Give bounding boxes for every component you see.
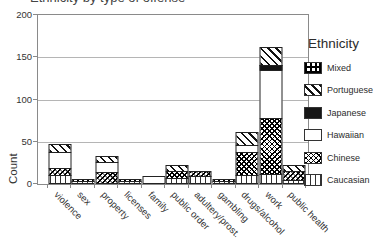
chart-title: Ethnicity by type of offense	[30, 0, 185, 5]
vlines-pattern-swatch-icon	[304, 174, 322, 186]
plain-pattern-swatch-icon	[304, 129, 322, 141]
legend-item-japanese: Japanese	[304, 107, 372, 118]
stacked-bar-licenses	[119, 179, 142, 184]
solid-pattern-swatch-icon	[304, 107, 322, 119]
bar-segment-hawaiian	[48, 152, 71, 168]
stacked-bar-gambling	[212, 179, 235, 184]
bar-segment-caucasian	[212, 181, 235, 184]
bar-slot-1	[48, 15, 71, 184]
legend-item-mixed: Mixed	[304, 62, 372, 73]
bar-slot-9	[236, 15, 259, 184]
x-tick-mark	[188, 184, 189, 188]
y-tick-label-0: 0	[27, 178, 32, 189]
y-tick-mark	[33, 183, 37, 184]
bar-slot-10	[259, 15, 282, 184]
legend: Ethnicity MixedPortugueseJapaneseHawaiia…	[304, 36, 372, 197]
grid-pattern-swatch-icon	[304, 62, 322, 74]
stacked-bar-work	[259, 47, 282, 184]
bar-segment-caucasian	[283, 180, 306, 184]
legend-item-label: Mixed	[327, 63, 351, 73]
legend-item-portuguese: Portuguese	[304, 85, 372, 96]
x-tick-mark	[258, 184, 259, 188]
bar-segment-caucasian	[165, 178, 188, 184]
bar-slot-11	[283, 15, 306, 184]
y-tick-mark	[33, 141, 37, 142]
bar-segment-chinese	[95, 172, 118, 184]
bar-slot-4	[118, 15, 141, 184]
x-tick-mark	[47, 184, 48, 188]
legend-title: Ethnicity	[308, 36, 372, 51]
stacked-bar-drugs-alcohol	[236, 132, 259, 184]
cross-pattern-swatch-icon	[304, 152, 322, 164]
bar-segment-caucasian	[72, 181, 95, 184]
legend-item-label: Caucasian	[327, 175, 370, 185]
stacked-bar-adultery-prost-	[189, 171, 212, 184]
bar-segment-chinese	[236, 152, 259, 176]
stacked-bar-violence	[48, 144, 71, 184]
legend-item-label: Chinese	[327, 153, 360, 163]
legend-item-chinese: Chinese	[304, 152, 372, 163]
bar-slot-7	[189, 15, 212, 184]
y-tick-label-150: 150	[16, 51, 32, 62]
stacked-bar-property	[95, 156, 118, 184]
bars-container	[48, 15, 306, 184]
legend-item-label: Portuguese	[327, 85, 373, 95]
bar-segment-caucasian	[236, 175, 259, 184]
bar-slot-5	[142, 15, 165, 184]
stacked-bar-sex	[72, 179, 95, 184]
x-tick-mark	[94, 184, 95, 188]
bar-slot-6	[165, 15, 188, 184]
x-label-sex: sex	[75, 189, 93, 207]
bar-segment-portuguese	[236, 132, 259, 146]
bar-segment-caucasian	[189, 176, 212, 184]
x-tick-mark	[141, 184, 142, 188]
bar-segment-caucasian	[119, 181, 142, 184]
x-tick-mark	[282, 184, 283, 188]
bar-segment-hawaiian	[259, 70, 282, 118]
x-tick-mark	[211, 184, 212, 188]
stacked-bar-public-health	[283, 165, 306, 184]
y-tick-label-100: 100	[16, 93, 32, 104]
legend-item-caucasian: Caucasian	[304, 175, 372, 186]
y-tick-mark	[33, 99, 37, 100]
y-tick-mark	[33, 56, 37, 57]
x-tick-mark	[70, 184, 71, 188]
legend-items: MixedPortugueseJapaneseHawaiianChineseCa…	[304, 62, 372, 186]
stacked-bar-family	[142, 176, 165, 184]
stacked-bar-public-order	[165, 165, 188, 184]
bar-slot-2	[71, 15, 94, 184]
y-tick-label-50: 50	[21, 135, 32, 146]
bar-segment-caucasian	[48, 175, 71, 184]
x-tick-mark	[117, 184, 118, 188]
legend-item-hawaiian: Hawaiian	[304, 130, 372, 141]
x-tick-mark	[235, 184, 236, 188]
bar-slot-3	[95, 15, 118, 184]
bar-slot-8	[212, 15, 235, 184]
legend-item-label: Hawaiian	[327, 130, 364, 140]
diag-pattern-swatch-icon	[304, 84, 322, 96]
legend-item-label: Japanese	[327, 108, 366, 118]
bar-segment-caucasian	[259, 174, 282, 184]
bar-segment-hawaiian	[142, 176, 165, 184]
y-tick-label-200: 200	[16, 9, 32, 20]
y-tick-mark	[33, 14, 37, 15]
y-axis: 200150100500	[0, 14, 33, 183]
bar-segment-chinese	[259, 118, 282, 175]
plot-area	[37, 14, 309, 185]
x-tick-mark	[164, 184, 165, 188]
bar-segment-portuguese	[259, 47, 282, 66]
